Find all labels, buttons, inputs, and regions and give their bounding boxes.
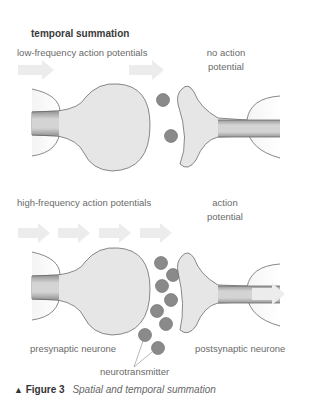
vesicles-top <box>157 94 178 143</box>
vesicle <box>157 94 170 107</box>
arrow-icon <box>18 223 50 243</box>
vesicle <box>155 257 168 270</box>
neurotransmitter-pointer <box>134 341 152 367</box>
presynaptic-neurone-top <box>32 84 150 171</box>
figure-caption: ▲ Figure 3 Spatial and temporal summatio… <box>14 384 216 395</box>
arrow-icon <box>129 60 164 80</box>
arrow-icon <box>99 223 131 243</box>
vesicle <box>165 130 178 143</box>
caption-text: Spatial and temporal summation <box>72 384 215 395</box>
arrow-icon <box>58 223 90 243</box>
postsynaptic-neurone-top <box>178 86 281 167</box>
arrow-icon <box>18 60 54 80</box>
vesicle <box>152 342 165 355</box>
triangle-icon: ▲ <box>14 385 23 395</box>
postsynaptic-neurone-bottom <box>178 253 286 333</box>
vesicle <box>151 305 164 318</box>
presynaptic-neurone-bottom <box>32 248 150 335</box>
vesicle <box>156 280 169 293</box>
synapse-diagram <box>0 0 312 404</box>
figure-number: Figure 3 <box>26 384 65 395</box>
vesicle <box>139 329 152 342</box>
vesicle <box>165 294 178 307</box>
input-arrows-top <box>18 60 164 80</box>
arrow-icon <box>140 223 172 243</box>
vesicle <box>160 318 173 331</box>
input-arrows-bottom <box>18 223 172 243</box>
